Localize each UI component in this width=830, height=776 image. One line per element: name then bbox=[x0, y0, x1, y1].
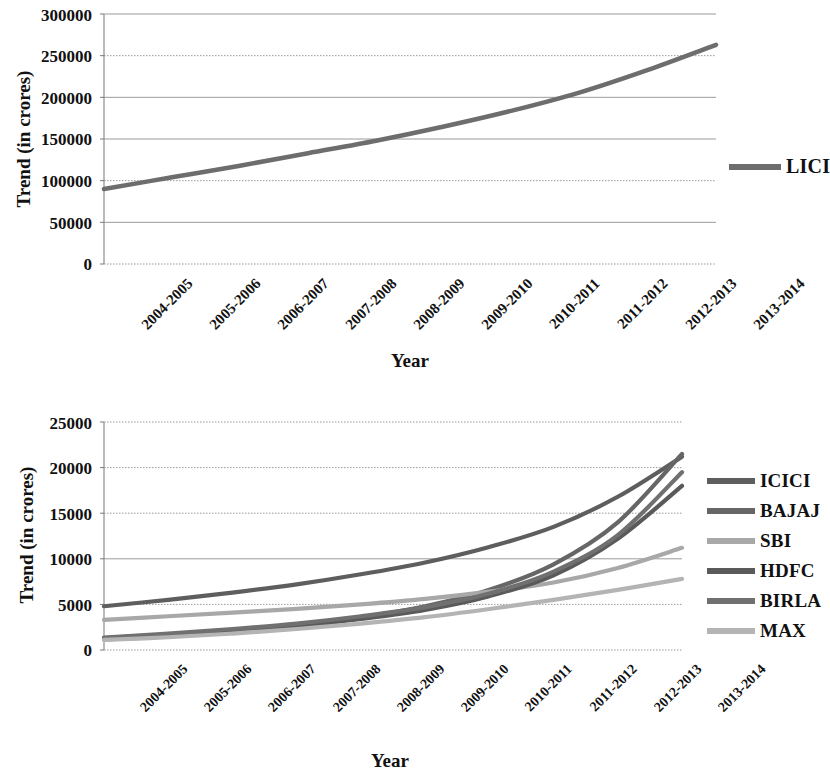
legend-swatch-lici-icon bbox=[729, 164, 781, 170]
legend-item-birla[interactable]: BIRLA bbox=[707, 590, 821, 612]
legend-label-sbi: SBI bbox=[760, 530, 791, 552]
legend-swatch-max-icon bbox=[707, 628, 755, 634]
x-tick-2005-2006: 2005-2006 bbox=[202, 662, 255, 715]
legend-swatch-icici-icon bbox=[707, 478, 755, 484]
top-chart-x-ticks: 2004-20052005-20062006-20072007-20082008… bbox=[0, 0, 821, 340]
legend-item-icici[interactable]: ICICI bbox=[707, 470, 821, 492]
top-chart-x-axis-title: Year bbox=[320, 350, 500, 372]
legend-label-birla: BIRLA bbox=[760, 590, 821, 612]
x-tick-2012-2013: 2012-2013 bbox=[683, 276, 740, 333]
legend-swatch-hdfc-icon bbox=[707, 568, 755, 574]
legend-swatch-birla-icon bbox=[707, 598, 755, 604]
legend-label-max: MAX bbox=[760, 620, 806, 642]
legend-label-hdfc: HDFC bbox=[760, 560, 815, 582]
private-insurers-trend-chart: Trend (in crores) 25000 20000 15000 1000… bbox=[0, 406, 821, 776]
x-tick-2009-2010: 2009-2010 bbox=[479, 276, 536, 333]
legend-item-lici[interactable]: LICI bbox=[729, 155, 830, 178]
x-tick-2011-2012: 2011-2012 bbox=[587, 662, 639, 714]
bottom-chart-legend: ICICIBAJAJSBIHDFCBIRLAMAX bbox=[707, 470, 821, 650]
legend-swatch-sbi-icon bbox=[707, 538, 755, 544]
bottom-chart-x-axis-title: Year bbox=[300, 750, 480, 772]
x-tick-2008-2009: 2008-2009 bbox=[395, 662, 448, 715]
x-tick-2010-2011: 2010-2011 bbox=[523, 662, 575, 714]
legend-item-bajaj[interactable]: BAJAJ bbox=[707, 500, 821, 522]
x-tick-2007-2008: 2007-2008 bbox=[343, 276, 400, 333]
x-tick-2006-2007: 2006-2007 bbox=[266, 662, 319, 715]
legend-item-max[interactable]: MAX bbox=[707, 620, 821, 642]
legend-label-bajaj: BAJAJ bbox=[760, 500, 820, 522]
lici-trend-chart: Trend (in crores) 300000 250000 200000 1… bbox=[0, 0, 821, 390]
top-chart-legend: LICI bbox=[729, 155, 830, 180]
x-tick-2013-2014: 2013-2014 bbox=[751, 276, 808, 333]
x-tick-2007-2008: 2007-2008 bbox=[330, 662, 383, 715]
bottom-chart-x-ticks: 2004-20052005-20062006-20072007-20082008… bbox=[0, 406, 821, 736]
legend-label-lici: LICI bbox=[786, 155, 830, 178]
x-tick-2011-2012: 2011-2012 bbox=[615, 276, 671, 332]
x-tick-2013-2014: 2013-2014 bbox=[716, 662, 769, 715]
x-tick-2005-2006: 2005-2006 bbox=[207, 276, 264, 333]
x-tick-2010-2011: 2010-2011 bbox=[547, 276, 603, 332]
legend-item-sbi[interactable]: SBI bbox=[707, 530, 821, 552]
x-tick-2012-2013: 2012-2013 bbox=[652, 662, 705, 715]
legend-swatch-bajaj-icon bbox=[707, 508, 755, 514]
x-tick-2006-2007: 2006-2007 bbox=[275, 276, 332, 333]
legend-label-icici: ICICI bbox=[760, 470, 811, 492]
x-tick-2004-2005: 2004-2005 bbox=[138, 662, 191, 715]
x-tick-2009-2010: 2009-2010 bbox=[459, 662, 512, 715]
x-tick-2008-2009: 2008-2009 bbox=[411, 276, 468, 333]
x-tick-2004-2005: 2004-2005 bbox=[139, 276, 196, 333]
legend-item-hdfc[interactable]: HDFC bbox=[707, 560, 821, 582]
